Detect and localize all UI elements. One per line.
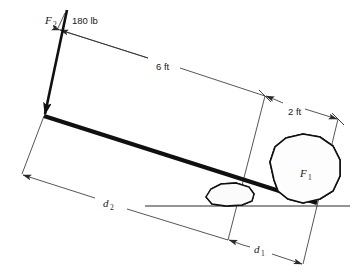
extension-line-fulcrum bbox=[228, 96, 265, 240]
label-6ft: 6 ft bbox=[156, 61, 170, 72]
label-d1-subscript: 1 bbox=[261, 249, 265, 258]
label-d1: d 1 bbox=[254, 243, 265, 258]
dim-6ft-arrow-left bbox=[60, 30, 148, 58]
dimension-d1 bbox=[229, 240, 302, 264]
label-d1-symbol: d bbox=[254, 243, 260, 255]
label-f1-subscript: 1 bbox=[308, 173, 312, 182]
lever-fulcrum-diagram: F 2 180 lb 6 ft 2 ft d 2 d 1 F 1 bbox=[0, 0, 362, 278]
label-d2: d 2 bbox=[103, 197, 114, 212]
label-f2-symbol: F bbox=[44, 14, 52, 26]
label-force-magnitude: 180 lb bbox=[72, 15, 98, 26]
label-f2-subscript: 2 bbox=[53, 20, 57, 29]
dim-d2-right-segment bbox=[127, 209, 228, 240]
label-f1-symbol: F bbox=[299, 167, 307, 179]
dim-d1-arrow-right bbox=[272, 254, 302, 264]
label-d2-symbol: d bbox=[103, 197, 109, 209]
label-d2-subscript: 2 bbox=[110, 203, 114, 212]
label-f2: F 2 bbox=[44, 14, 57, 29]
dim-d1-arrow-left bbox=[229, 240, 243, 245]
diagram-canvas: F 2 180 lb 6 ft 2 ft d 2 d 1 F 1 bbox=[0, 0, 362, 278]
dim-2ft-seg-a bbox=[276, 100, 283, 103]
dimension-d2 bbox=[23, 175, 228, 240]
dim-d1-seg-a bbox=[243, 245, 250, 247]
dim-2ft-arrow-right bbox=[305, 109, 337, 119]
fulcrum-rock bbox=[204, 181, 258, 209]
dim-d2-arrow-left bbox=[23, 175, 95, 198]
label-2ft: 2 ft bbox=[288, 106, 302, 117]
extension-line-left-end bbox=[22, 116, 44, 174]
dimension-2ft bbox=[266, 96, 344, 125]
dim-6ft-right-segment bbox=[180, 68, 265, 96]
